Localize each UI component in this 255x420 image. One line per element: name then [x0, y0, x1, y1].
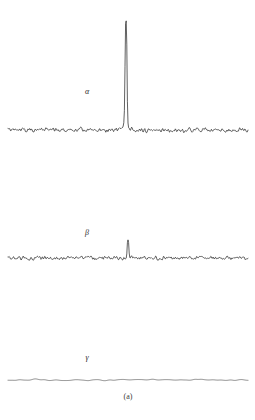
- plot-background: [0, 0, 255, 420]
- spectra-plot-area: [0, 0, 255, 420]
- trace-label-alpha: α: [85, 88, 89, 96]
- spectra-figure: α β γ (a): [0, 0, 255, 420]
- panel-caption: (a): [124, 393, 133, 401]
- trace-label-beta: β: [85, 229, 89, 237]
- trace-label-gamma: γ: [85, 354, 88, 362]
